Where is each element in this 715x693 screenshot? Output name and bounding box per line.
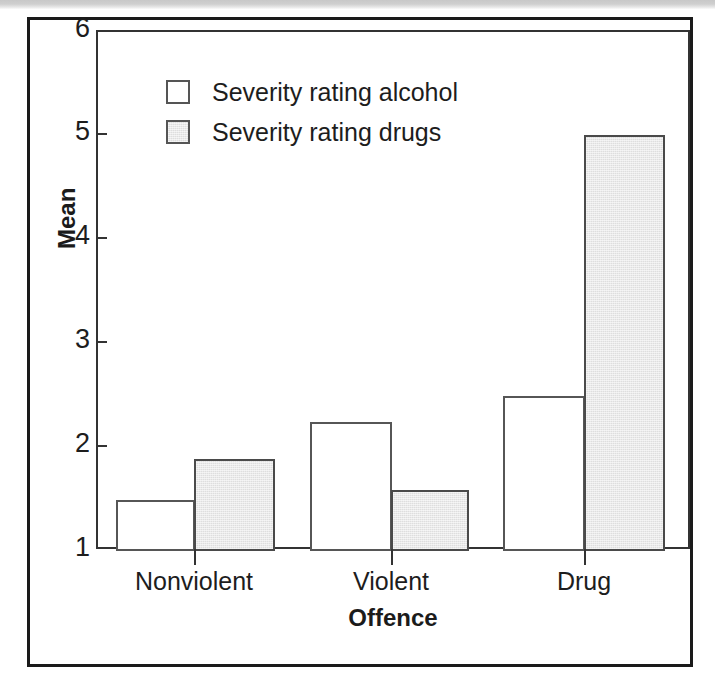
legend-swatch-drugs-icon [166,120,190,144]
x-axis-label-drug: Drug [514,567,654,596]
bar-violent-drugs [391,490,469,551]
legend-label-drugs: Severity rating drugs [212,118,441,147]
y-axis-tick-label-5: 5 [75,118,90,145]
y-axis-title-text: Mean [53,188,81,249]
bar-nonviolent-alcohol [116,500,195,551]
y-axis-tick-5 [96,133,107,135]
x-axis-label-nonviolent: Nonviolent [104,567,284,596]
y-axis-tick-label-6: 6 [75,15,90,42]
bar-drug-alcohol [503,396,585,551]
y-axis-tick-label-2: 2 [75,430,90,457]
x-axis-tick-drug [584,549,586,565]
x-axis-tick-violent [391,549,393,565]
y-axis-tick-4 [96,237,107,239]
y-axis-tick-label-1: 1 [75,534,90,561]
y-axis-tick-3 [96,341,107,343]
x-axis-label-violent: Violent [311,567,471,596]
scan-edge-band [0,0,715,9]
bar-drug-drugs [584,135,665,551]
y-axis-tick-6 [96,30,107,32]
y-axis-tick-label-3: 3 [75,326,90,353]
x-axis-title: Offence [96,604,690,632]
legend-swatch-alcohol-icon [166,80,190,104]
y-axis-tick-2 [96,445,107,447]
legend-item-alcohol: Severity rating alcohol [166,72,458,112]
legend-label-alcohol: Severity rating alcohol [212,78,458,107]
bar-violent-alcohol [310,422,392,551]
legend-item-drugs: Severity rating drugs [166,112,458,152]
chart-legend: Severity rating alcohol Severity rating … [166,72,458,152]
x-axis-tick-nonviolent [194,549,196,565]
bar-nonviolent-drugs [194,459,275,551]
